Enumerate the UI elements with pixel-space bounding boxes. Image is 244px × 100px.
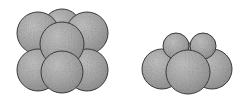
sphere-diagram: [0, 0, 244, 100]
figure-canvas: [0, 0, 244, 100]
sphere-front-lower: [41, 51, 83, 93]
left-cluster: [17, 9, 108, 93]
sphere-front-center: [166, 50, 210, 94]
